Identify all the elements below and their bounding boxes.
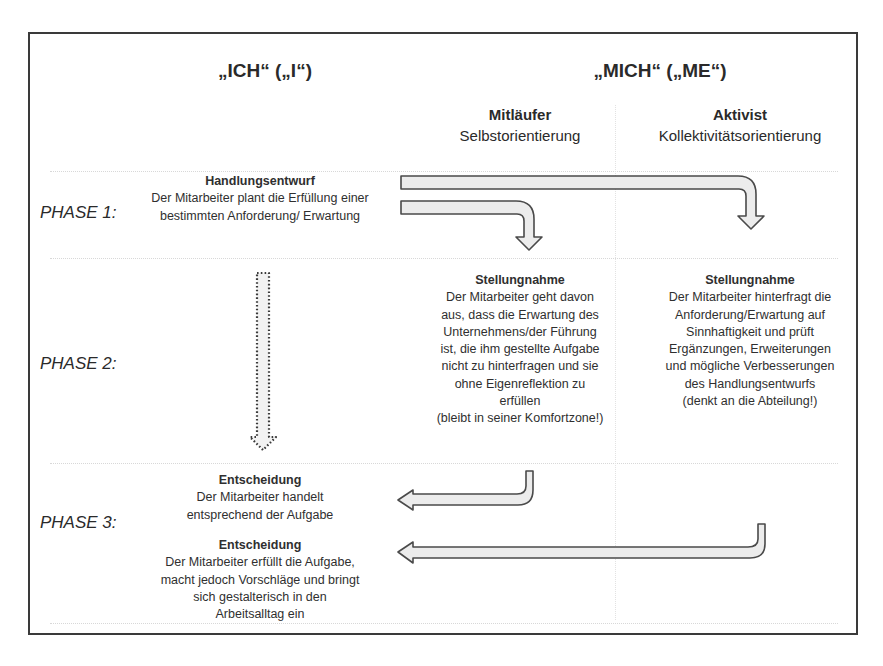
bent-arrow-icon [401,201,542,250]
arrows-layer [0,0,883,666]
bent-left-arrow-icon [398,524,765,563]
dotted-down-arrow-icon [250,273,276,450]
bent-left-arrow-icon [398,471,533,510]
